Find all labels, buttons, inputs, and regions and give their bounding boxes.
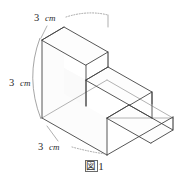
dimension-top-value: 3: [34, 12, 39, 23]
figure-caption: 図1: [0, 159, 189, 173]
dimension-bottom-value: 3: [38, 141, 43, 152]
leader-top-left-tick: [41, 26, 47, 38]
figure-container: 3 cm 3 cm 3 cm 図1: [0, 0, 189, 182]
solid-faces: [42, 27, 173, 155]
dimension-top-unit: cm: [45, 13, 56, 23]
left-height-brace: [33, 38, 41, 119]
figure-caption-symbol: 図: [85, 160, 99, 172]
dimension-bottom-unit: cm: [49, 142, 60, 152]
figure-caption-number: 1: [98, 160, 104, 172]
leader-top-dotted: [66, 13, 108, 17]
dimension-left-unit: cm: [20, 78, 31, 88]
leader-bottom-tick: [47, 126, 58, 141]
staircase-isometric-drawing: 3 cm 3 cm 3 cm: [0, 0, 189, 182]
dimension-left-value: 3: [9, 77, 14, 88]
